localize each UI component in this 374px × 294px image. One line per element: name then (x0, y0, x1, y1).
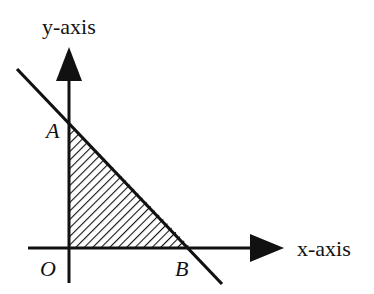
boundary-line (17, 69, 222, 284)
point-b-label: B (175, 256, 188, 281)
point-a-label: A (44, 118, 60, 143)
x-axis-arrow-icon (250, 234, 284, 262)
y-axis-label: y-axis (42, 14, 96, 39)
diagram-canvas: y-axis x-axis A O B (0, 0, 374, 294)
x-axis-label: x-axis (297, 236, 351, 261)
y-axis-arrow-icon (56, 47, 82, 81)
origin-label: O (40, 256, 56, 281)
